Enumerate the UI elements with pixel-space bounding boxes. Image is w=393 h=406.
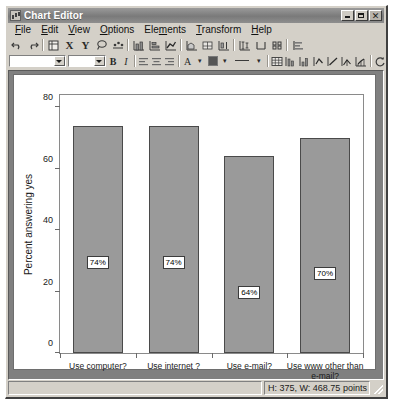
maximize-button[interactable] [355,10,368,21]
toolbar-separator [266,55,269,67]
menu-item-elements[interactable]: Elements [139,23,191,37]
status-size-readout: H: 375, W: 468.75 points [264,381,370,395]
font-size-select[interactable] [68,55,106,67]
x-tick-0 [60,353,61,358]
stacked-bar-icon[interactable] [147,38,162,52]
rotate-icon[interactable] [374,54,386,68]
close-button[interactable]: ✕ [369,10,382,21]
y-tick-20 [55,291,60,292]
toolbar-format: B I A ▾ ▾ ▾ [6,53,386,69]
y-tick-label-80: 80 [43,92,53,102]
text-color-dropdown-icon[interactable]: ▾ [195,54,206,68]
menu-item-edit[interactable]: Edit [36,23,63,37]
align-left-icon[interactable] [290,38,305,52]
bar-style-2-icon[interactable] [299,54,311,68]
y-tick-label-40: 40 [43,215,53,225]
line-interpolation-icon[interactable] [327,54,339,68]
bar-chart-icon[interactable] [131,38,146,52]
line-style-sample[interactable] [233,56,252,66]
x-axis-icon[interactable]: X [62,38,77,52]
menu-item-options[interactable]: Options [95,23,139,37]
y-tick-label-20: 20 [43,277,53,287]
y-axis-title: Percent answering yes [22,94,36,354]
align-center-icon[interactable] [151,54,162,68]
y-tick-label-60: 60 [43,154,53,164]
x-tick-2 [212,353,213,358]
y-axis-icon[interactable]: Y [78,38,93,52]
chevron-down-icon[interactable] [94,56,105,66]
x-tick-label-1: Use internet ? [131,361,217,371]
x-tick-label-0: Use computer? [55,361,141,371]
menu-item-transform[interactable]: Transform [191,23,246,37]
status-bar: H: 375, W: 468.75 points [8,381,384,395]
error-bar-icon[interactable] [237,38,252,52]
lasso-select-icon[interactable] [94,38,109,52]
redo-icon[interactable] [25,38,40,52]
box-plot-icon[interactable] [216,38,231,52]
undo-icon[interactable] [9,38,24,52]
marker-style-icon[interactable] [313,54,325,68]
bar-label-2: 64% [238,286,260,299]
x-tick-label-3: Use www other than e-mail? [282,361,368,380]
font-family-select[interactable] [9,55,66,67]
bar-label-3: 70% [314,267,336,280]
italic-icon[interactable]: I [120,54,131,68]
histogram-icon[interactable] [253,38,268,52]
align-right-icon[interactable] [164,54,175,68]
area-chart-icon[interactable] [184,38,199,52]
line-style-dropdown-icon[interactable]: ▾ [253,54,264,68]
resize-grip[interactable] [372,383,384,395]
bar-style-icon[interactable] [285,54,297,68]
x-tick-1 [136,353,137,358]
point-id-icon[interactable] [110,38,125,52]
fill-color-dropdown-icon[interactable]: ▾ [220,54,231,68]
bold-icon[interactable]: B [108,54,119,68]
toolbar-primary: X Y [6,37,386,53]
bar-2[interactable]: 64% [224,156,274,353]
grid-icon[interactable] [271,54,283,68]
toolbar-separator [133,55,136,67]
toolbar-separator [177,55,180,67]
window-controls: ✕ [341,10,383,21]
spike-icon[interactable] [341,54,353,68]
y-tick-label-0: 0 [48,338,53,348]
menu-bar: File Edit View Options Elements Transfor… [6,23,386,37]
y-tick-60 [55,168,60,169]
x-tick-3 [287,353,288,358]
toolbar-separator [369,55,372,67]
text-color-icon[interactable]: A [182,54,193,68]
plot-area: 0 20 40 60 80 74% 74% 64% [59,94,364,354]
menu-item-view[interactable]: View [63,23,95,37]
data-table-icon[interactable] [46,38,61,52]
bar-label-1: 74% [163,256,185,269]
line-chart-icon[interactable] [163,38,178,52]
bar-0[interactable]: 74% [73,126,123,353]
chart-editor-icon [10,10,21,21]
toolbar-separator [232,39,236,51]
chevron-down-icon[interactable] [54,56,65,66]
bar-1[interactable]: 74% [149,126,199,353]
scatter-matrix-icon[interactable] [269,38,284,52]
drop-line-icon[interactable] [355,54,367,68]
x-tick-label-2: Use e-mail? [206,361,292,371]
menu-item-file[interactable]: File [10,23,36,37]
fill-color-swatch[interactable] [208,56,218,66]
y-tick-40 [55,229,60,230]
x-tick-4 [363,353,364,358]
chart-canvas-area[interactable]: Percent answering yes 0 20 40 60 80 74% [8,70,384,380]
y-axis-title-text: Percent answering yes [24,173,35,274]
title-bar[interactable]: Chart Editor ✕ [8,8,384,23]
align-left-icon[interactable] [138,54,149,68]
window-title: Chart Editor [24,10,341,21]
bar-label-0: 74% [87,256,109,269]
status-message [8,381,262,395]
pie-chart-icon[interactable] [200,38,215,52]
toolbar-separator [285,39,289,51]
chart-editor-window: Chart Editor ✕ File Edit View Options El… [5,5,388,399]
minimize-button[interactable] [341,10,354,21]
chart-sheet[interactable]: Percent answering yes 0 20 40 60 80 74% [13,74,376,370]
toolbar-separator [179,39,183,51]
menu-item-help[interactable]: Help [246,23,277,37]
toolbar-separator [41,39,45,51]
bar-3[interactable]: 70% [300,138,350,353]
